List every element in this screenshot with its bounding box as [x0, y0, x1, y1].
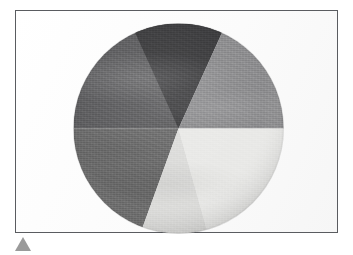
triangle-marker-icon	[15, 237, 31, 251]
pie-slices	[73, 23, 284, 234]
artwork-stage	[0, 0, 353, 255]
color-wheel	[73, 23, 284, 234]
picture-frame	[15, 10, 338, 233]
pie-chart-svg	[73, 23, 284, 234]
